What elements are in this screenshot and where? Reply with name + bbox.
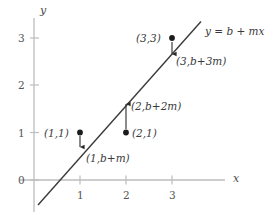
- y-tick-label-3: 3: [18, 33, 25, 44]
- fit-label-3-b-plus-3m: (3,b+3m): [176, 56, 226, 67]
- point-label-1-1: (1,1): [44, 128, 69, 139]
- regression-line: [38, 22, 201, 206]
- fit-label-2-b-plus-2m: (2,b+2m): [131, 101, 181, 112]
- point-label-3-3: (3,3): [136, 33, 161, 44]
- data-point-1: [77, 130, 83, 136]
- data-point-2: [123, 130, 129, 136]
- point-label-2-1: (2,1): [132, 128, 157, 139]
- fit-label-1-b-plus-m: (1,b+m): [86, 153, 130, 164]
- regression-diagram: y x 3 2 1 0 1 2 3 (1,1) (1,b+m) (2,1) (2…: [0, 0, 269, 212]
- x-tick-label-1: 1: [77, 190, 84, 201]
- y-tick-label-0: 0: [18, 175, 25, 186]
- x-tick-label-3: 3: [169, 190, 176, 201]
- y-axis-label: y: [40, 5, 46, 16]
- x-tick-label-2: 2: [123, 190, 130, 201]
- data-point-3: [169, 35, 175, 41]
- y-tick-label-2: 2: [18, 80, 25, 91]
- line-equation-label: y = b + mx: [205, 26, 264, 37]
- y-tick-label-1: 1: [18, 128, 25, 139]
- x-axis-label: x: [233, 173, 239, 184]
